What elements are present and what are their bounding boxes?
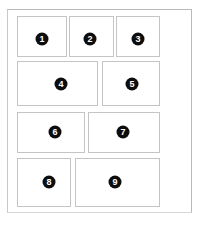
card-number-badge-8: 8 [43,176,56,189]
card-number-badge-1: 1 [36,33,49,46]
card-number-badge-7: 7 [117,126,130,139]
card-number-badge-4: 4 [55,78,68,91]
card-number-badge-6: 6 [49,126,62,139]
card-number-badge-2: 2 [84,33,97,46]
diagram-canvas: 123456789 [0,0,202,225]
card-number-badge-5: 5 [126,78,139,91]
card-number-badge-3: 3 [132,33,145,46]
card-number-badge-9: 9 [109,176,122,189]
